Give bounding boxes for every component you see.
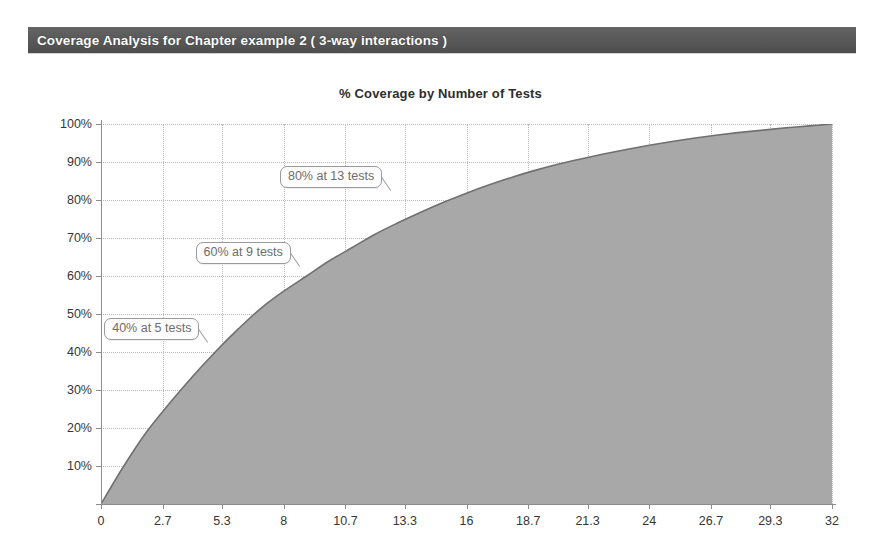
y-axis-tick-label: 50% [4, 307, 92, 321]
y-axis-tick [96, 428, 102, 429]
x-axis-tick [528, 504, 529, 509]
y-axis-tick-label: 20% [4, 421, 92, 435]
x-axis-tick [770, 504, 771, 509]
coverage-analysis-header-bar: Coverage Analysis for Chapter example 2 … [28, 27, 856, 53]
coverage-chart: % Coverage by Number of Tests 10%20%30%4… [0, 60, 881, 549]
y-axis-tick-label: 40% [4, 345, 92, 359]
coverage-area-series [101, 124, 832, 504]
x-axis-tick-label: 21.3 [553, 514, 623, 528]
x-axis-tick [649, 504, 650, 509]
x-axis-tick [222, 504, 223, 509]
x-axis-tick-label: 29.3 [735, 514, 805, 528]
y-axis-tick [96, 466, 102, 467]
y-axis-tick [96, 238, 102, 239]
y-axis-tick [96, 276, 102, 277]
x-axis-tick-label: 32 [797, 514, 867, 528]
coverage-callout: 40% at 5 tests [104, 318, 199, 340]
y-axis-tick [96, 314, 102, 315]
y-axis-tick-label: 60% [4, 269, 92, 283]
page-title: Coverage Analysis for Chapter example 2 … [28, 33, 447, 48]
y-axis-tick-label: 80% [4, 193, 92, 207]
y-axis-tick [96, 124, 102, 125]
x-axis-tick [711, 504, 712, 509]
x-axis-tick [101, 504, 102, 509]
x-axis-tick-label: 16 [432, 514, 502, 528]
x-axis-tick-label: 8 [249, 514, 319, 528]
y-axis-tick-label: 100% [4, 117, 92, 131]
y-axis-tick [96, 200, 102, 201]
gridline-vertical [832, 124, 833, 504]
x-axis-tick [588, 504, 589, 509]
x-axis-tick [467, 504, 468, 509]
chart-title: % Coverage by Number of Tests [0, 86, 881, 101]
y-axis-tick-label: 10% [4, 459, 92, 473]
y-axis-tick [96, 162, 102, 163]
x-axis-tick-label: 0 [66, 514, 136, 528]
y-axis-tick-label: 30% [4, 383, 92, 397]
x-axis-tick [405, 504, 406, 509]
y-axis-tick [96, 390, 102, 391]
coverage-callout: 60% at 9 tests [196, 242, 291, 264]
x-axis-tick [284, 504, 285, 509]
y-axis-tick-label: 90% [4, 155, 92, 169]
area-fill-path [101, 124, 832, 504]
x-axis-tick-label: 13.3 [370, 514, 440, 528]
x-axis-tick [163, 504, 164, 509]
y-axis-tick-label: 70% [4, 231, 92, 245]
x-axis-tick-label: 24 [614, 514, 684, 528]
x-axis-tick-label: 5.3 [187, 514, 257, 528]
coverage-callout: 80% at 13 tests [280, 166, 382, 188]
x-axis-tick [345, 504, 346, 509]
y-axis-tick [96, 352, 102, 353]
x-axis-tick [832, 504, 833, 509]
y-axis-labels: 10%20%30%40%50%60%70%80%90%100% [0, 60, 92, 549]
